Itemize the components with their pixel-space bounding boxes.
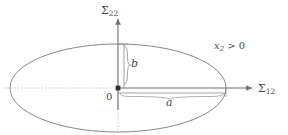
figure-canvas: Σ22 Σ12 b a 0 x2 > 0 xyxy=(0,0,288,135)
semi-axis-a-label: a xyxy=(166,97,173,108)
diagram-vector-layer xyxy=(0,0,288,135)
axis-label-sigma22: Σ22 xyxy=(101,5,118,17)
origin-label: 0 xyxy=(106,92,112,102)
semi-axis-b-label: b xyxy=(131,58,138,69)
origin-marker-dot xyxy=(116,86,121,91)
brace-b xyxy=(124,46,131,84)
region-annotation-x2-positive: x2 > 0 xyxy=(214,41,245,52)
axis-label-sigma12-subscript: 12 xyxy=(266,87,276,96)
region-annotation-value: 0 xyxy=(239,40,245,51)
axis-label-sigma22-symbol: Σ xyxy=(101,4,109,17)
axis-label-sigma12-symbol: Σ xyxy=(258,82,266,95)
axis-label-sigma12: Σ12 xyxy=(258,83,275,95)
axis-label-sigma22-subscript: 22 xyxy=(109,9,119,18)
region-annotation-operator: > xyxy=(224,40,239,51)
